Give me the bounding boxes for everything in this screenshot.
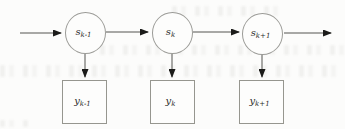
hmm-chain-diagram: sk-1 sk sk+1 yk-1 yk yk+1: [0, 0, 345, 129]
state-node-s-k: sk: [152, 12, 193, 54]
observation-label-y-k-1: yk-1: [74, 96, 91, 106]
observation-node-y-k-1: yk-1: [62, 80, 107, 124]
observation-node-y-k: yk: [150, 80, 195, 124]
state-node-s-k-1: sk-1: [65, 12, 106, 54]
observation-label-y-k: yk: [166, 96, 176, 106]
state-label-s-k: sk: [166, 27, 175, 37]
observation-label-y-k+1: yk+1: [249, 96, 269, 106]
observation-node-y-k+1: yk+1: [239, 80, 284, 124]
state-label-s-k-1: sk-1: [75, 27, 91, 37]
state-label-s-k+1: sk+1: [251, 28, 271, 38]
state-node-s-k+1: sk+1: [242, 13, 283, 55]
